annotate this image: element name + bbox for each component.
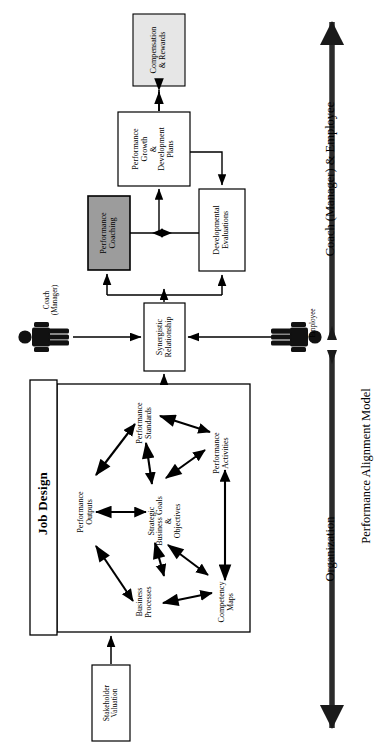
axis-midpoint-lower-head <box>327 350 337 364</box>
employee-person-icon <box>271 322 322 352</box>
box-synergistic-relationship <box>144 303 185 371</box>
box-performance-growth-development-plans <box>118 112 190 186</box>
arrowhead-left-mid <box>161 229 172 238</box>
coach-person-icon <box>18 322 69 352</box>
job-design-container <box>30 380 250 635</box>
performance-alignment-model-diagram: Compensation & Rewards Performance Growt… <box>0 0 379 754</box>
box-developmental-evaluations <box>199 189 245 271</box>
box-compensation-rewards <box>133 14 185 86</box>
diagram-vector-layer <box>0 0 379 754</box>
box-performance-coaching <box>88 196 130 270</box>
box-stakeholder-valuation <box>92 665 130 741</box>
arrow-growth-to-evaluations <box>190 152 222 185</box>
axis-midpoint-upper-head <box>327 326 337 340</box>
